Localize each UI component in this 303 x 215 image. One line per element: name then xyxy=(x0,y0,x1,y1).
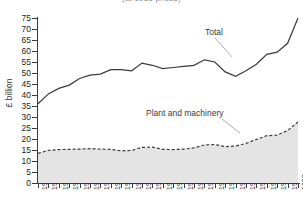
plant-series-label: Plant and machinery xyxy=(146,108,224,118)
plant-and-machinery-area xyxy=(38,122,298,183)
total-line xyxy=(38,18,298,104)
total-series-label: Total xyxy=(205,27,223,37)
total-leader-line xyxy=(215,38,232,57)
plant-leader-line xyxy=(222,119,240,133)
chart-container: (at 1985 prices) £ billion 0510152025303… xyxy=(0,0,303,215)
